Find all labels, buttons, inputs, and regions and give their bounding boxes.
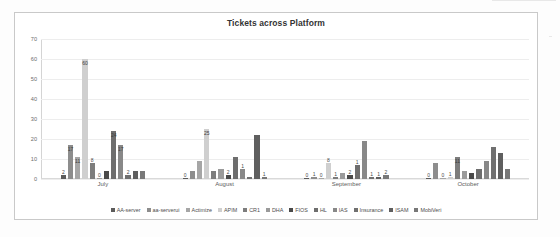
bar-hl[interactable]: 24 [111,131,116,179]
bar-ias[interactable]: 17 [118,145,123,179]
x-axis-label-september: September [286,181,408,193]
bar-insurance[interactable]: 1 [369,177,374,179]
bar-dha[interactable] [462,171,467,179]
legend-item-aa-server[interactable]: AA-server [111,207,141,213]
gridline [41,179,529,180]
legend-item-insurance[interactable]: Insurance [354,207,384,213]
bar-fios[interactable] [104,171,109,179]
bar-actimize[interactable] [197,161,202,179]
bar-slot: 2 [382,39,389,179]
legend-item-aa-serverui[interactable]: aa-serverui [147,207,180,213]
bar-dha[interactable]: 0 [97,178,102,179]
bar-ias[interactable] [484,161,489,179]
bar-apim[interactable]: 60 [82,59,87,179]
bar-isam[interactable] [254,135,259,179]
legend-item-isam[interactable]: ISAM [389,207,408,213]
y-axis-tick-label: 60 [31,56,37,62]
bar-slot [217,39,224,179]
legend-item-fios[interactable]: FIOS [289,207,308,213]
legend-item-mobiveri[interactable]: MobiVeri [414,207,441,213]
bar-actimize[interactable]: 0 [440,178,445,179]
bar-hl[interactable] [233,157,238,179]
bar-data-label: 0 [442,172,445,178]
legend-item-dha[interactable]: DHA [266,207,283,213]
bar-data-label: 24 [111,132,117,138]
bar-apim[interactable]: 1 [448,177,453,179]
legend-label: AA-server [117,207,141,213]
bar-fios[interactable] [469,173,474,179]
bar-data-label: 1 [334,171,337,177]
page-artifact-top [492,0,556,1]
bar-mobiveri[interactable] [140,171,145,179]
bar-cr1[interactable]: 11 [455,157,460,179]
bar-aa-serverui[interactable] [190,171,195,179]
bar-dha[interactable] [340,173,345,179]
bar-aa-server[interactable]: 0 [304,178,309,179]
bar-data-label: 8 [91,157,94,163]
bar-slot: 60 [81,39,88,179]
bar-data-label: 25 [204,130,210,136]
bar-data-label: 0 [184,172,187,178]
bar-aa-server[interactable]: 2 [61,175,66,179]
bar-insurance[interactable]: 2 [125,175,130,179]
bar-isam[interactable] [133,171,138,179]
page-artifact-right [549,36,552,37]
bar-slot: 1 [375,39,382,179]
bar-actimize[interactable]: 11 [75,157,80,179]
legend-item-hl[interactable]: HL [314,207,327,213]
bar-slot: 1 [261,39,268,179]
bar-hl[interactable] [476,169,481,179]
bar-slot: 17 [117,39,124,179]
legend-label: ISAM [395,207,408,213]
bar-data-label: 1 [377,171,380,177]
chart-legend: AA-serveraa-serveruiActimizeAPIMCR1DHAFI… [15,207,537,213]
bar-group-july: 21711608024172 [42,39,164,179]
bar-isam[interactable]: 1 [376,177,381,179]
bar-mobiveri[interactable] [505,169,510,179]
bar-aa-server[interactable]: 0 [426,178,431,179]
bar-insurance[interactable] [247,177,252,179]
bar-slot: 1 [310,39,317,179]
bar-aa-serverui[interactable] [433,163,438,179]
bar-fios[interactable]: 2 [347,175,352,179]
bar-fios[interactable]: 2 [226,175,231,179]
bar-ias[interactable]: 1 [240,169,245,179]
legend-swatch-icon [289,208,293,212]
bar-cr1[interactable] [211,171,216,179]
bar-actimize[interactable]: 0 [319,178,324,179]
legend-label: CR1 [249,207,260,213]
legend-label: MobiVeri [420,207,441,213]
bar-isam[interactable] [498,153,503,179]
bar-slot [232,39,239,179]
bar-slot: 24 [110,39,117,179]
bar-slot [361,39,368,179]
chart-screenshot: Tickets across Platform 706050403020100 … [0,0,560,237]
bar-insurance[interactable] [491,147,496,179]
bar-apim[interactable]: 25 [204,129,209,179]
bar-slot [139,39,146,179]
bar-slot [504,39,511,179]
y-axis-tick-label: 10 [31,156,37,162]
bar-hl[interactable]: 1 [355,165,360,179]
legend-item-cr1[interactable]: CR1 [243,207,260,213]
bar-apim[interactable]: 8 [326,163,331,179]
bar-aa-server[interactable]: 0 [183,178,188,179]
x-axis-label-august: August [164,181,286,193]
bar-data-label: 0 [98,172,101,178]
x-axis-label-october: October [407,181,529,193]
bar-cr1[interactable]: 1 [333,177,338,179]
bar-slot: 1 [239,39,246,179]
bar-slot: 1 [354,39,361,179]
legend-item-apim[interactable]: APIM [218,207,237,213]
bar-ias[interactable] [362,141,367,179]
bar-aa-serverui[interactable]: 17 [68,145,73,179]
legend-item-actimize[interactable]: Actimize [186,207,212,213]
bar-cr1[interactable]: 8 [90,163,95,179]
bar-dha[interactable] [218,169,223,179]
bar-aa-serverui[interactable]: 1 [311,177,316,179]
chart-container: Tickets across Platform 706050403020100 … [14,12,538,220]
bar-data-label: 1 [241,163,244,169]
bar-mobiveri[interactable]: 1 [262,177,267,179]
bar-mobiveri[interactable]: 2 [383,175,388,179]
legend-item-ias[interactable]: IAS [333,207,348,213]
